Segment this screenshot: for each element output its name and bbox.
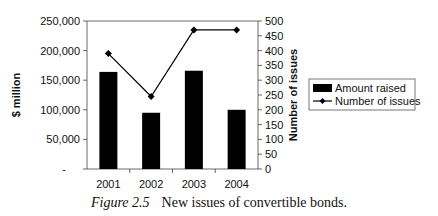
line-series-number-of-issues: [105, 26, 240, 100]
right-tick-label: 500: [265, 15, 283, 27]
left-tick-label: 200,000: [40, 45, 80, 57]
diamond-marker-icon: [190, 26, 197, 33]
right-tick-label: 50: [265, 148, 277, 160]
x-tick-label: 2004: [224, 178, 248, 190]
legend-bar-swatch-icon: [313, 84, 332, 92]
bar: [142, 113, 160, 169]
legend: Amount raised Number of issues: [309, 79, 421, 110]
left-tick-label: 150,000: [40, 74, 80, 86]
right-axis-title: Number of issues: [287, 49, 299, 141]
bar: [228, 110, 246, 169]
issues-line: [108, 30, 236, 97]
left-tick-label: 250,000: [40, 15, 80, 27]
diamond-marker-icon: [233, 26, 240, 33]
right-tick-label: 300: [265, 74, 283, 86]
legend-label-number-of-issues: Number of issues: [335, 95, 421, 107]
left-tick-label: 50,000: [46, 133, 80, 145]
x-tick-label: 2003: [182, 178, 206, 190]
x-axis: 2001200220032004: [96, 169, 249, 190]
x-tick-label: 2002: [139, 178, 163, 190]
right-tick-label: 350: [265, 59, 283, 71]
right-axis: 050100150200250300350400450500: [258, 15, 283, 175]
right-tick-label: 400: [265, 45, 283, 57]
caption-text: New issues of convertible bonds.: [162, 195, 347, 210]
x-tick-label: 2001: [96, 178, 120, 190]
left-axis: -50,000100,000150,000200,000250,000: [40, 15, 87, 175]
right-tick-label: 100: [265, 133, 283, 145]
right-tick-label: 200: [265, 104, 283, 116]
right-tick-label: 150: [265, 119, 283, 131]
legend-label-amount-raised: Amount raised: [335, 82, 406, 94]
bar-series-amount-raised: [99, 71, 245, 169]
bar: [185, 71, 203, 169]
bar: [99, 72, 117, 169]
figure-label: Figure 2.5: [91, 195, 150, 210]
left-tick-label: 100,000: [40, 104, 80, 116]
combo-chart: -50,000100,000150,000200,000250,000 0501…: [0, 0, 438, 195]
right-tick-label: 0: [265, 163, 271, 175]
left-tick-label: -: [62, 163, 66, 175]
right-tick-label: 250: [265, 89, 283, 101]
figure-caption: Figure 2.5New issues of convertible bond…: [0, 195, 438, 211]
left-axis-title: $ million: [10, 72, 22, 117]
right-tick-label: 450: [265, 30, 283, 42]
